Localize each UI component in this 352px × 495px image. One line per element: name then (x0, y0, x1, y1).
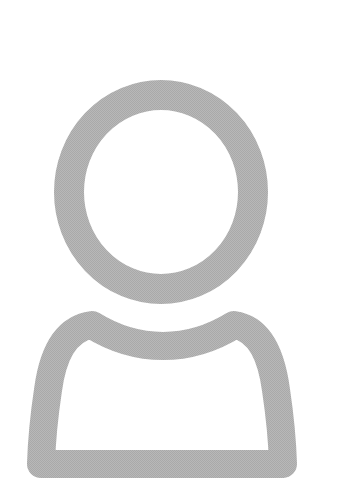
avatar-placeholder (0, 0, 352, 495)
user-placeholder-icon (0, 0, 352, 495)
body-outline (41, 325, 283, 464)
head-ring (69, 95, 253, 289)
